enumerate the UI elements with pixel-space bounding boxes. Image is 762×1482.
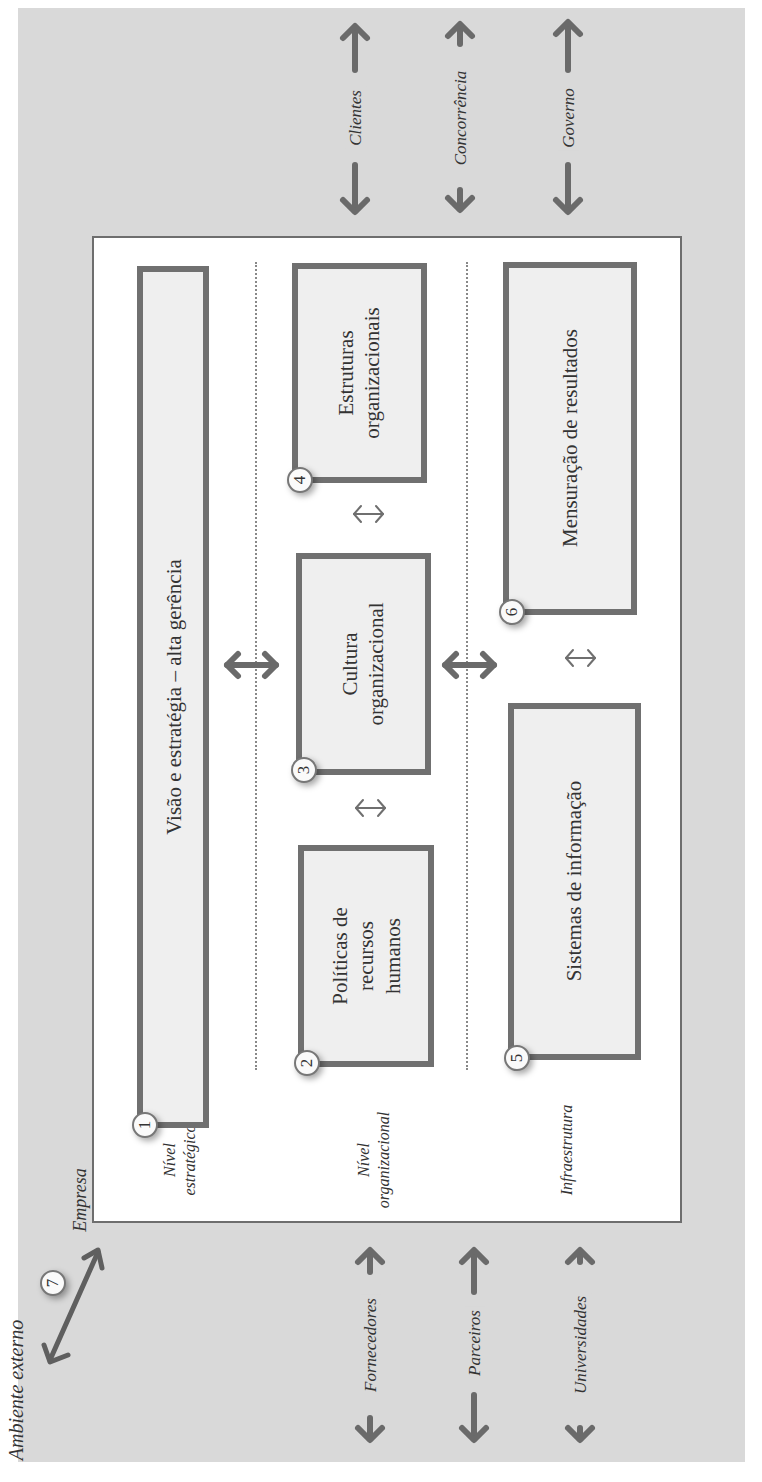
actor-partners: Parceiros	[464, 1307, 485, 1379]
actor-competition: Concorrência	[450, 68, 471, 168]
actor-clients: Clientes	[345, 87, 366, 149]
external-arrows	[0, 0, 762, 1482]
actor-suppliers: Fornecedores	[360, 1295, 381, 1395]
actor-universities: Universidades	[570, 1293, 591, 1397]
actor-government: Governo	[558, 85, 579, 150]
